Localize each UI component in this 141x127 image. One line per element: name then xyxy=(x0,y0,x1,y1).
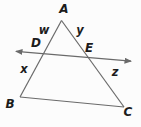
point-label-e: E xyxy=(85,42,93,54)
point-label-d: D xyxy=(31,37,41,49)
angle-label-y: y xyxy=(76,25,84,37)
triangle-side-ca xyxy=(62,21,125,108)
triangle-side-bc xyxy=(20,97,124,107)
transversal-line-de xyxy=(16,51,131,61)
vertex-label-b: B xyxy=(5,98,14,110)
angle-label-w: w xyxy=(39,25,50,37)
angle-label-x: x xyxy=(20,64,27,76)
vertex-label-c: C xyxy=(124,106,133,118)
angle-label-z: z xyxy=(112,67,119,79)
geometry-diagram: A B C D E w x y z xyxy=(0,0,141,127)
vertex-label-a: A xyxy=(59,3,68,15)
